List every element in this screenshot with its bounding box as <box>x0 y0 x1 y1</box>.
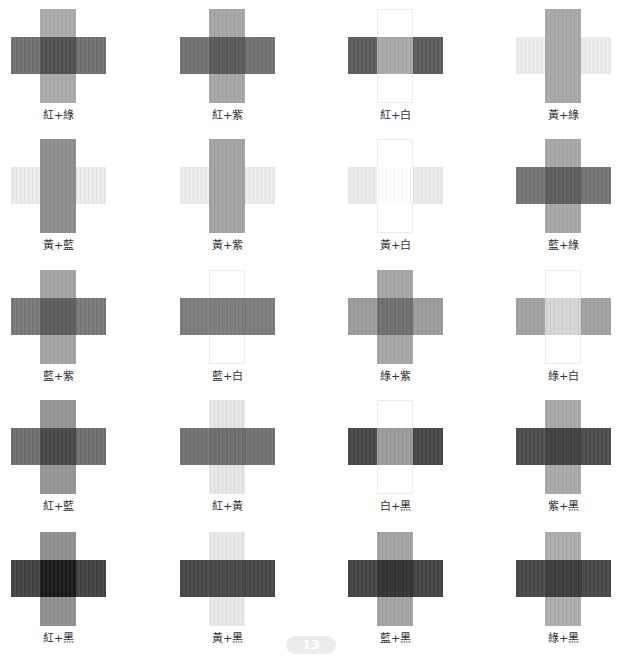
overlap-color-region <box>209 298 245 335</box>
color-swatch-card: 紫+黑 <box>516 391 624 521</box>
overlap-color-region <box>40 37 76 74</box>
color-swatch-card: 綠+紫 <box>348 261 468 391</box>
swatch-label: 紅+白 <box>348 106 443 122</box>
overlap-color-region <box>545 37 581 74</box>
color-swatch-card: 黃+綠 <box>516 0 624 130</box>
swatch-label: 紫+黑 <box>516 497 611 513</box>
overlap-color-region <box>377 37 413 74</box>
color-swatch-card: 紅+白 <box>348 0 468 130</box>
page-number-badge: 13 <box>286 636 336 654</box>
swatch-label: 黃+藍 <box>11 236 106 252</box>
color-swatch-card: 藍+白 <box>180 261 300 391</box>
overlap-color-region <box>377 167 413 204</box>
swatch-label: 藍+白 <box>180 367 275 383</box>
swatch-label: 黃+白 <box>348 236 443 252</box>
color-swatch-card: 紅+紫 <box>180 0 300 130</box>
color-swatch-card: 綠+白 <box>516 261 624 391</box>
swatch-label: 綠+紫 <box>348 367 443 383</box>
color-swatch-card: 紅+藍 <box>11 391 131 521</box>
overlap-color-region <box>40 428 76 465</box>
swatch-label: 藍+綠 <box>516 236 611 252</box>
color-swatch-card: 綠+黑 <box>516 523 624 653</box>
swatch-label: 紅+綠 <box>11 106 106 122</box>
overlap-color-region <box>545 298 581 335</box>
overlap-color-region <box>377 428 413 465</box>
overlap-color-region <box>40 560 76 597</box>
swatch-label: 藍+紫 <box>11 367 106 383</box>
swatch-label: 藍+黑 <box>348 629 443 645</box>
color-swatch-card: 黃+藍 <box>11 130 131 260</box>
swatch-label: 黃+紫 <box>180 236 275 252</box>
color-swatch-card: 紅+綠 <box>11 0 131 130</box>
color-swatch-card: 藍+黑 <box>348 523 468 653</box>
swatch-label: 綠+白 <box>516 367 611 383</box>
color-swatch-card: 藍+綠 <box>516 130 624 260</box>
overlap-color-region <box>377 560 413 597</box>
overlap-color-region <box>209 167 245 204</box>
swatch-label: 黃+黑 <box>180 629 275 645</box>
overlap-color-region <box>545 428 581 465</box>
color-swatch-card: 黃+白 <box>348 130 468 260</box>
color-swatch-card: 紅+黃 <box>180 391 300 521</box>
color-swatch-card: 白+黑 <box>348 391 468 521</box>
overlap-color-region <box>209 37 245 74</box>
swatch-label: 紅+黃 <box>180 497 275 513</box>
overlap-color-region <box>209 428 245 465</box>
swatch-label: 紅+黑 <box>11 629 106 645</box>
overlap-color-region <box>545 167 581 204</box>
color-swatch-card: 藍+紫 <box>11 261 131 391</box>
overlap-color-region <box>377 298 413 335</box>
swatch-label: 黃+綠 <box>516 106 611 122</box>
overlap-color-region <box>40 298 76 335</box>
swatch-label: 綠+黑 <box>516 629 611 645</box>
color-swatch-card: 黃+黑 <box>180 523 300 653</box>
swatch-label: 紅+紫 <box>180 106 275 122</box>
overlap-color-region <box>545 560 581 597</box>
swatch-label: 紅+藍 <box>11 497 106 513</box>
overlap-color-region <box>209 560 245 597</box>
color-swatch-card: 紅+黑 <box>11 523 131 653</box>
swatch-label: 白+黑 <box>348 497 443 513</box>
color-swatch-card: 黃+紫 <box>180 130 300 260</box>
overlap-color-region <box>40 167 76 204</box>
